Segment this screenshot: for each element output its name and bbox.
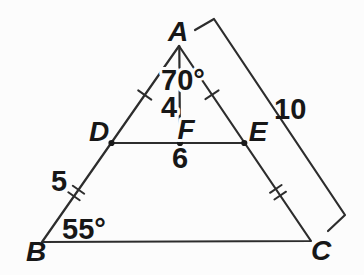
segment-bd-measure: 5 [51, 165, 67, 197]
single-tick-ae [205, 90, 218, 99]
double-tick-db-2 [68, 192, 79, 200]
angle-b-measure: 55° [62, 213, 106, 245]
vertex-label-d: D [89, 116, 109, 147]
vertex-label-f: F [177, 114, 195, 145]
point-d-dot [108, 140, 114, 146]
segment-de-measure: 6 [172, 142, 188, 174]
side-ac-measure: 10 [274, 93, 306, 125]
ac-dimension-bracket [195, 19, 345, 231]
double-tick-ec-2 [274, 192, 286, 200]
single-tick-ad [138, 90, 151, 99]
segment-af-measure: 4 [161, 91, 177, 123]
geometry-figure: A B C D E F 70° 4 6 5 55° 10 [0, 0, 364, 275]
point-e-dot [241, 140, 247, 146]
double-tick-db-1 [73, 186, 84, 194]
triangle-diagram: A B C D E F 70° 4 6 5 55° 10 [0, 0, 364, 275]
vertex-label-b: B [26, 236, 46, 267]
vertex-label-c: C [311, 235, 332, 266]
vertex-label-e: E [249, 116, 269, 147]
double-tick-ec-1 [270, 185, 282, 193]
vertex-label-a: A [167, 16, 188, 47]
